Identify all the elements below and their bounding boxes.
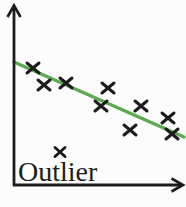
x-marker-icon	[162, 113, 174, 123]
scatter-plot-svg: Outlier	[0, 0, 186, 207]
x-marker-icon	[102, 83, 114, 93]
x-marker-icon	[38, 80, 50, 90]
scatter-figure: Outlier	[0, 0, 186, 207]
x-marker-icon	[95, 101, 107, 111]
outlier-label: Outlier	[18, 156, 98, 187]
x-marker-icon	[135, 101, 147, 111]
x-marker-icon	[124, 125, 136, 135]
